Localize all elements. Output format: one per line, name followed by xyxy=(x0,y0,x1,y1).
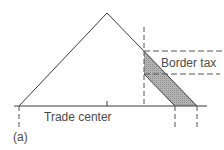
border-tax-label: Border tax xyxy=(161,56,216,70)
market-area-diagram: Border tax Trade center (a) xyxy=(0,0,224,150)
trade-center-label: Trade center xyxy=(44,110,112,124)
panel-label: (a) xyxy=(13,130,28,144)
